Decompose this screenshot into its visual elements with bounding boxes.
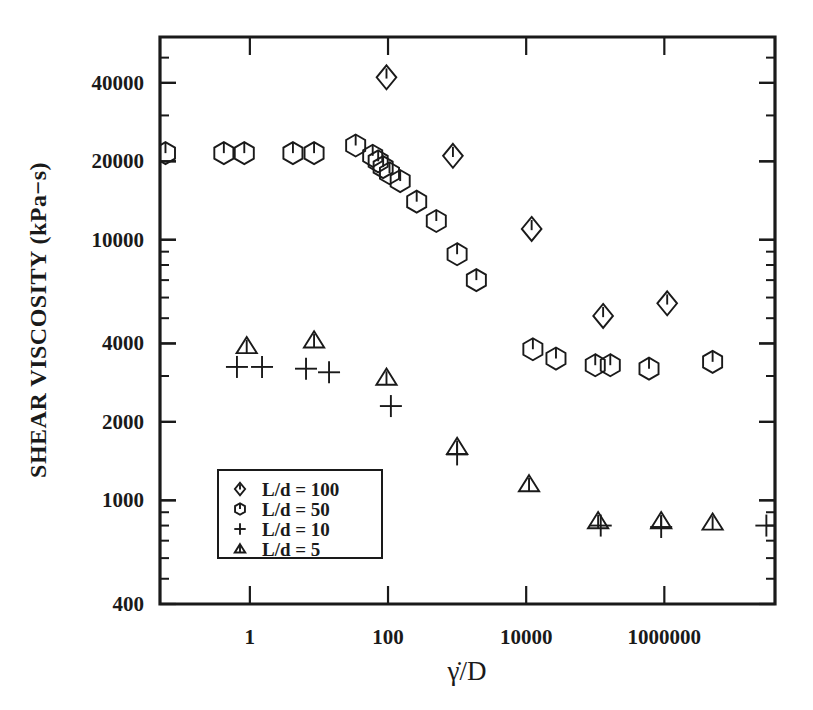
data-point [376,369,396,385]
y-axis-tick-label: 400 [113,592,145,616]
data-point [380,395,402,417]
data-point [601,354,620,376]
data-point [283,142,302,164]
data-point [235,142,254,164]
data-point [651,512,671,528]
data-point [295,358,317,380]
data-point [519,475,539,491]
data-point [703,351,722,373]
data-point [702,513,722,529]
y-axis-tick-label: 4000 [102,331,144,355]
x-axis-tick-label: 100 [372,625,404,649]
data-point [369,150,388,172]
y-axis-tick-label: 10000 [92,228,145,252]
data-point [407,191,426,213]
data-point [251,356,273,378]
legend: L/d = 100L/d = 50L/d = 10L/d = 5 [218,470,382,560]
data-point [214,142,233,164]
y-axis-tick-label: 1000 [102,488,144,512]
y-axis-tick-label: 40000 [92,71,145,95]
y-axis-tick-label: 2000 [102,410,144,434]
x-axis-tick-labels: 1100100001000000 [245,625,701,649]
data-point [443,144,463,168]
data-point [304,331,324,347]
legend-label: L/d = 100 [262,479,339,500]
data-point [467,269,486,291]
data-point [522,217,542,241]
data-point [593,304,613,328]
data-point [226,356,248,378]
x-axis-tick-label: 10000 [500,625,553,649]
data-point [237,337,257,353]
series-1 [377,65,677,328]
legend-label: L/d = 5 [262,539,320,560]
data-point-layer [156,65,777,538]
data-point [427,210,446,232]
data-point [318,361,340,383]
series-2 [156,135,722,380]
y-axis-tick-labels: 400002000010000400020001000400 [92,71,145,616]
data-point [657,291,677,315]
data-point [586,354,605,376]
data-point [305,142,324,164]
legend-label: L/d = 10 [262,519,330,540]
figure-container: 400002000010000400020001000400 110010000… [0,0,813,710]
x-axis-tick-label: 1000000 [628,625,702,649]
legend-label: L/d = 50 [262,499,330,520]
data-point [546,348,565,370]
x-axis-title: γ̇/D [447,656,487,686]
data-point [639,358,658,380]
y-axis-title: SHEAR VISCOSITY (kPa−s) [25,162,51,478]
data-point [448,243,467,265]
x-axis-tick-label: 1 [245,625,256,649]
shear-viscosity-scatter-chart: 400002000010000400020001000400 110010000… [0,0,813,710]
data-point [447,438,467,454]
data-point [377,65,397,89]
data-point [523,338,542,360]
y-axis-tick-label: 20000 [92,149,145,173]
